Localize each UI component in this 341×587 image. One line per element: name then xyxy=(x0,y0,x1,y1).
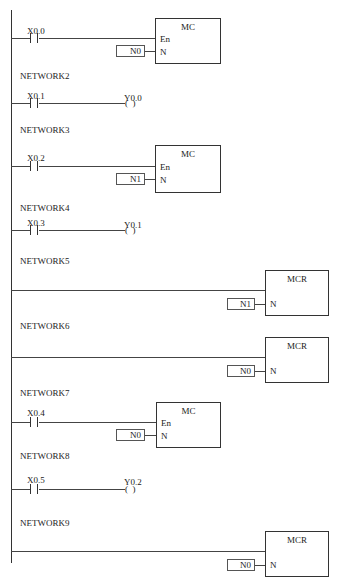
network-label: NETWORK5 xyxy=(20,256,70,266)
coil-icon[interactable]: ( ) xyxy=(125,98,136,108)
rung-wire xyxy=(39,103,125,104)
rung-wire xyxy=(39,230,125,231)
block-title: MCR xyxy=(266,274,328,284)
network-label: NETWORK3 xyxy=(20,125,70,135)
block-title: MC xyxy=(156,149,220,159)
pin-n: N xyxy=(160,47,167,57)
block-title: MCR xyxy=(266,341,328,351)
left-power-rail xyxy=(11,10,12,563)
mcr-block[interactable]: MCR N xyxy=(265,270,329,316)
rung-wire xyxy=(39,422,156,423)
network-label: NETWORK9 xyxy=(20,518,70,528)
pin-n: N xyxy=(270,366,277,376)
mc-block[interactable]: MC En N xyxy=(155,18,221,64)
network-label: NETWORK6 xyxy=(20,321,70,331)
param-box[interactable]: N1 xyxy=(116,173,145,185)
param-wire xyxy=(255,304,265,305)
rung-wire xyxy=(39,38,155,39)
pin-en: En xyxy=(160,162,170,172)
rung-wire xyxy=(39,166,155,167)
rung-wire xyxy=(39,489,125,490)
param-wire xyxy=(145,51,155,52)
param-box[interactable]: N1 xyxy=(227,298,255,310)
pin-en: En xyxy=(160,34,170,44)
param-wire xyxy=(145,435,156,436)
mc-block[interactable]: MC En N xyxy=(156,402,221,448)
block-title: MC xyxy=(156,22,220,32)
rung-wire xyxy=(11,357,265,358)
pin-n: N xyxy=(270,560,277,570)
network-label: NETWORK4 xyxy=(20,203,70,213)
param-box[interactable]: N0 xyxy=(116,429,145,441)
param-box[interactable]: N0 xyxy=(227,559,255,571)
param-box[interactable]: N0 xyxy=(116,45,145,57)
network-label: NETWORK8 xyxy=(20,451,70,461)
coil-icon[interactable]: ( ) xyxy=(125,484,136,494)
pin-n: N xyxy=(270,299,277,309)
network-label: NETWORK7 xyxy=(20,388,70,398)
rung-wire xyxy=(11,290,265,291)
param-box[interactable]: N0 xyxy=(227,365,255,377)
block-title: MCR xyxy=(266,535,328,545)
pin-en: En xyxy=(161,418,171,428)
param-wire xyxy=(255,371,265,372)
mc-block[interactable]: MC En N xyxy=(155,145,221,193)
block-title: MC xyxy=(157,406,220,416)
param-wire xyxy=(145,179,155,180)
mcr-block[interactable]: MCR N xyxy=(265,337,329,383)
mcr-block[interactable]: MCR N xyxy=(265,531,329,577)
network-label: NETWORK2 xyxy=(20,71,70,81)
coil-icon[interactable]: ( ) xyxy=(125,225,136,235)
param-wire xyxy=(255,565,265,566)
pin-n: N xyxy=(160,175,167,185)
rung-wire xyxy=(11,551,265,552)
pin-n: N xyxy=(161,431,168,441)
